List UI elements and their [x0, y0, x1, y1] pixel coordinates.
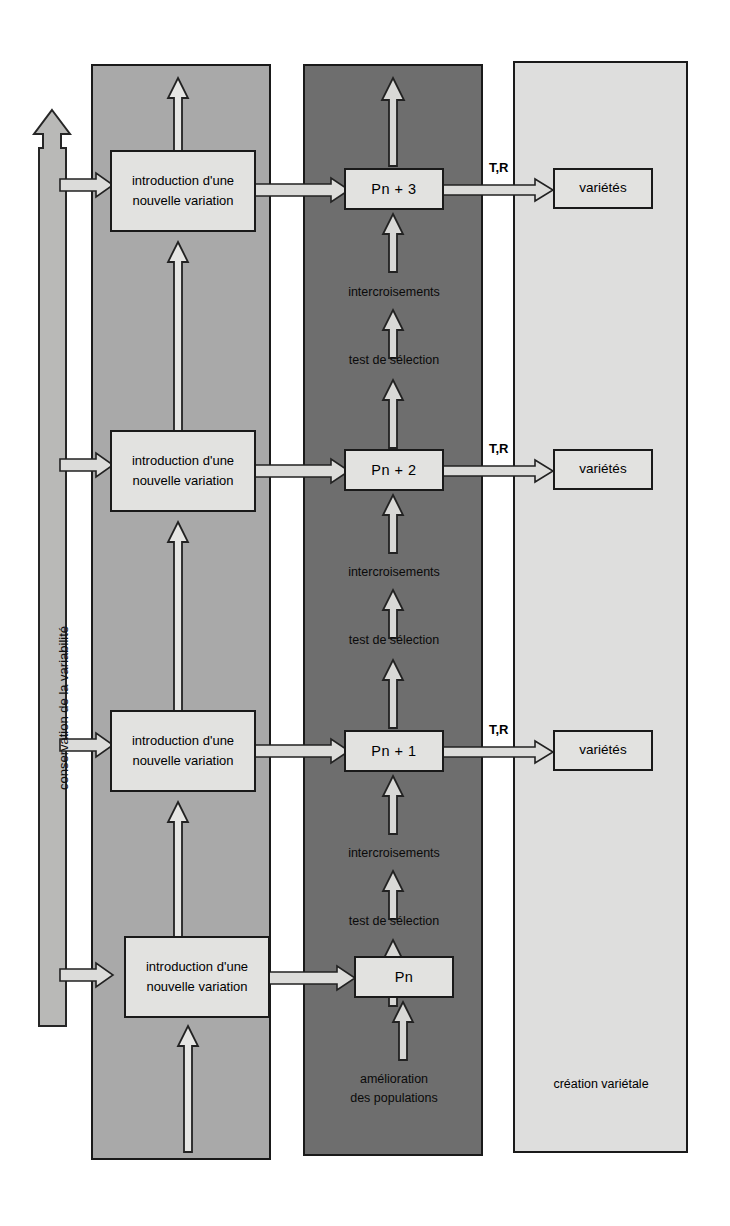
intro-to-population-arrow-4 [253, 177, 351, 203]
population-to-variety-arrow-2 [443, 739, 555, 765]
transfer-label-3: T,R [489, 441, 509, 456]
selection-up-arrow-4 [381, 378, 405, 450]
variety-box-label-4: variétés [579, 178, 626, 199]
conservation-to-intro-arrow-3 [60, 452, 115, 478]
introduction-box-1[interactable]: introduction d'une nouvelle variation [124, 936, 270, 1018]
introduction-box-label-3: introduction d'une nouvelle variation [112, 451, 254, 491]
crossing-label-2: intercroisements [318, 844, 470, 863]
crossing-arrow-2 [381, 774, 405, 836]
amelioration-footer-label: amélioration des populations [316, 1070, 472, 1108]
conservation-to-intro-arrow-4 [60, 172, 115, 198]
population-box-label-1: Pn [395, 966, 414, 988]
conservation-axis-label: conservation de la variabilité [56, 626, 71, 790]
introduction-box-label-1: introduction d'une nouvelle variation [126, 957, 268, 997]
introduction-box-label-2: introduction d'une nouvelle variation [112, 731, 254, 771]
intro-up-arrow-4 [166, 76, 190, 154]
population-to-variety-arrow-3 [443, 458, 555, 484]
amelioration-up-arrow-1 [391, 1000, 415, 1062]
creation-footer-label: création variétale [521, 1075, 681, 1094]
population-box-label-2: Pn + 1 [371, 740, 416, 762]
introduction-box-3[interactable]: introduction d'une nouvelle variation [110, 430, 256, 512]
transfer-label-4: T,R [489, 160, 509, 175]
intro-to-population-arrow-1 [267, 965, 357, 991]
variety-box-3[interactable]: variétés [553, 449, 653, 490]
crossing-label-4: intercroisements [318, 283, 470, 302]
selection-label-4: test de sélection [318, 351, 470, 370]
intro-feed-arrow-3 [166, 520, 190, 718]
intro-feed-arrow-4 [166, 240, 190, 438]
variety-box-label-2: variétés [579, 740, 626, 761]
intro-to-population-arrow-3 [253, 458, 351, 484]
intro-to-population-arrow-2 [253, 738, 351, 764]
population-up-arrow-4 [380, 76, 406, 168]
crossing-label-3: intercroisements [318, 563, 470, 582]
population-box-label-3: Pn + 2 [371, 459, 416, 481]
introduction-box-4[interactable]: introduction d'une nouvelle variation [110, 150, 256, 232]
population-box-3[interactable]: Pn + 2 [344, 449, 444, 491]
population-box-2[interactable]: Pn + 1 [344, 730, 444, 772]
population-box-4[interactable]: Pn + 3 [344, 168, 444, 210]
crossing-arrow-4 [381, 212, 405, 274]
selection-label-3: test de sélection [318, 631, 470, 650]
variety-box-2[interactable]: variétés [553, 730, 653, 771]
conservation-axis-arrow [30, 108, 74, 1028]
population-box-label-4: Pn + 3 [371, 178, 416, 200]
variety-box-4[interactable]: variétés [553, 168, 653, 209]
selection-up-arrow-3 [381, 658, 405, 730]
introduction-box-2[interactable]: introduction d'une nouvelle variation [110, 710, 256, 792]
column-creation [513, 61, 688, 1153]
figure-canvas: conservation de la variabilité introduct… [0, 0, 730, 1226]
introduction-box-label-4: introduction d'une nouvelle variation [112, 171, 254, 211]
population-box-1[interactable]: Pn [354, 956, 454, 998]
variety-box-label-3: variétés [579, 459, 626, 480]
transfer-label-2: T,R [489, 722, 509, 737]
population-to-variety-arrow-4 [443, 177, 555, 203]
crossing-arrow-3 [381, 493, 405, 555]
selection-label-2: test de sélection [318, 912, 470, 931]
conservation-to-intro-arrow-1 [60, 962, 115, 988]
intro-feed-arrow-1 [176, 1024, 200, 1154]
